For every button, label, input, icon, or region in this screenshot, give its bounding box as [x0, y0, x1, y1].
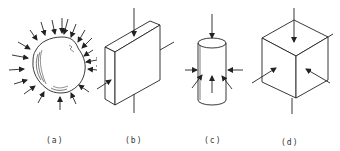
panel-b-label: (b): [125, 136, 142, 145]
panel-b-slab: [96, 8, 174, 113]
panel-d-label: (d): [281, 138, 298, 147]
panel-d-cube: [252, 8, 333, 114]
panel-a-rock: [9, 18, 97, 110]
panel-c-label: (c): [204, 136, 221, 145]
diagram-canvas: [0, 0, 340, 151]
panel-c-cylinder: [185, 14, 243, 105]
pressure-arrows: [9, 18, 97, 110]
panel-a-label: (a): [46, 136, 63, 145]
